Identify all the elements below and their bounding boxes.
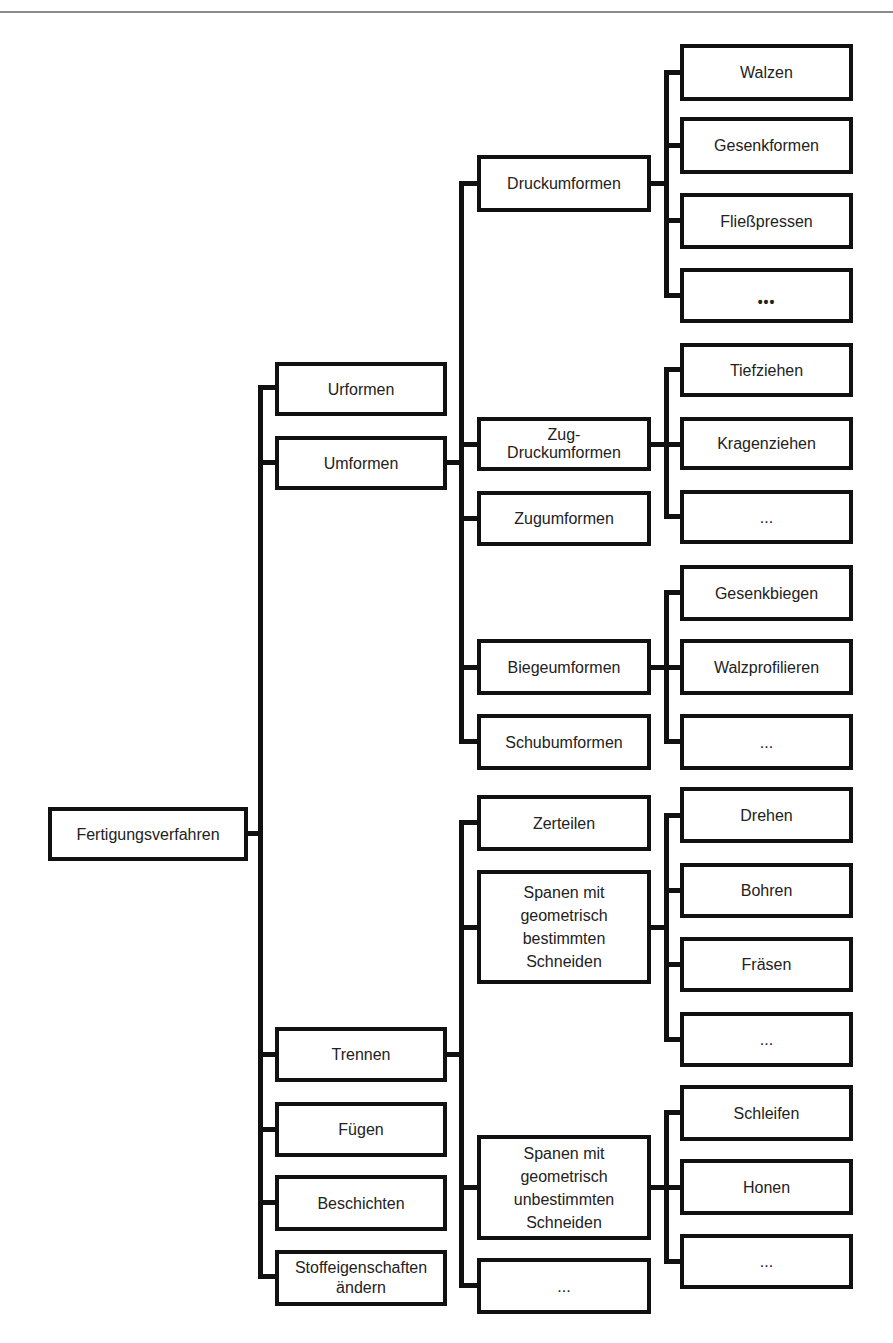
connector [459, 925, 478, 930]
connector [459, 1185, 478, 1190]
node-spanen-geometrisch-bestimmt: Spanen mit geometrisch bestimmten Schnei… [477, 870, 651, 984]
node-fraesen: Fräsen [680, 937, 853, 992]
node-urformen: Urformen [275, 362, 447, 416]
connector [459, 442, 478, 447]
node-zerteilen: Zerteilen [477, 795, 651, 851]
node-walzprofilieren: Walzprofilieren [680, 639, 853, 695]
connector [258, 1274, 276, 1279]
connector [664, 813, 669, 1040]
node-bohren: Bohren [680, 863, 853, 918]
connector [664, 442, 681, 447]
connector [459, 820, 464, 1285]
node-beschichten: Beschichten [275, 1175, 447, 1231]
connector [258, 385, 263, 1278]
node-more-spanen-unbestimmt: ... [680, 1234, 853, 1289]
connector [664, 739, 681, 744]
node-fliesspressen: Fließpressen [680, 193, 853, 249]
node-stoffeigenschaften-aendern: Stoffeigenschaften ändern [275, 1250, 447, 1306]
connector [664, 218, 681, 223]
connector [664, 962, 681, 967]
node-walzen: Walzen [680, 44, 853, 101]
connector [258, 460, 276, 465]
connector [664, 367, 681, 372]
node-biegeumformen: Biegeumformen [477, 639, 651, 695]
connector [459, 516, 478, 521]
node-honen: Honen [680, 1159, 853, 1215]
connector [664, 1110, 681, 1115]
node-umformen: Umformen [275, 436, 447, 490]
connector [459, 739, 478, 744]
connector [664, 1037, 681, 1042]
connector [459, 1283, 478, 1288]
connector [664, 1259, 681, 1264]
node-tiefziehen: Tiefziehen [680, 343, 853, 397]
connector [258, 1200, 276, 1205]
node-drehen: Drehen [680, 787, 853, 843]
connector [664, 143, 681, 148]
node-more-biege: ... [680, 714, 853, 770]
connector [664, 590, 681, 595]
connector [664, 514, 681, 519]
node-zugumformen: Zugumformen [477, 491, 651, 546]
top-divider-line [0, 11, 893, 13]
node-trennen: Trennen [275, 1027, 447, 1082]
node-fertigungsverfahren: Fertigungsverfahren [48, 807, 248, 861]
connector [664, 665, 681, 670]
node-spanen-geometrisch-unbestimmt: Spanen mit geometrisch unbestimmten Schn… [477, 1135, 651, 1240]
connector [459, 181, 464, 744]
node-gesenkbiegen: Gesenkbiegen [680, 565, 853, 621]
node-more-zugdruck: ... [680, 490, 853, 544]
node-kragenziehen: Kragenziehen [680, 417, 853, 470]
connector [664, 70, 681, 75]
connector [258, 1052, 276, 1057]
connector [258, 385, 276, 390]
connector [664, 293, 681, 298]
node-schleifen: Schleifen [680, 1085, 853, 1141]
connector [664, 813, 681, 818]
node-more-druck: ••• [680, 268, 853, 323]
node-fuegen: Fügen [275, 1102, 447, 1157]
node-gesenkformen: Gesenkformen [680, 117, 853, 174]
connector [258, 1127, 276, 1132]
connector [664, 70, 669, 298]
connector [459, 181, 478, 186]
node-more-spanen-bestimmt: ... [680, 1012, 853, 1067]
node-zug-druckumformen: Zug- Druckumformen [477, 417, 651, 471]
node-schubumformen: Schubumformen [477, 714, 651, 770]
connector [459, 665, 478, 670]
connector [664, 888, 681, 893]
connector [664, 1185, 681, 1190]
node-druckumformen: Druckumformen [477, 155, 651, 212]
connector [459, 820, 478, 825]
node-more-trennen: ... [477, 1258, 651, 1314]
